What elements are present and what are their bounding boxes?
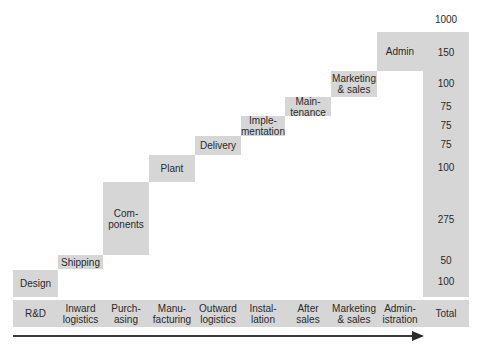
category-total: Total <box>423 300 469 327</box>
category-outward-logistics: Outward logistics <box>195 300 241 327</box>
category-purchasing: Purch- asing <box>103 300 149 327</box>
category-administration: Admin- istration <box>377 300 423 327</box>
total-implementation-value: 75 <box>423 120 469 131</box>
category-after-sales: After sales <box>285 300 331 327</box>
category-installation: Instal- lation <box>241 300 285 327</box>
category-rd: R&D <box>13 300 58 327</box>
step-design: Design <box>13 270 58 297</box>
total-components-value: 275 <box>423 214 469 225</box>
total-admin-value: 150 <box>423 47 469 58</box>
total-grand-label: 1000 <box>423 14 469 25</box>
total-delivery-value: 75 <box>423 139 469 150</box>
step-marketing-sales: Marketing & sales <box>331 71 377 97</box>
step-maintenance: Main- tenance <box>285 97 331 116</box>
category-inward-logistics: Inward logistics <box>58 300 103 327</box>
step-components: Com- ponents <box>103 182 149 255</box>
category-marketing-sales: Marketing & sales <box>331 300 377 327</box>
step-implementation: Imple- mentation <box>241 116 285 136</box>
total-design-value: 100 <box>423 276 469 287</box>
step-shipping: Shipping <box>58 255 103 269</box>
category-manufacturing: Manu- facturing <box>149 300 195 327</box>
total-marketing-value: 100 <box>423 78 469 89</box>
flow-arrow-line <box>13 335 413 337</box>
total-shipping-value: 50 <box>423 255 469 266</box>
step-admin: Admin <box>377 32 423 71</box>
step-plant: Plant <box>149 155 195 182</box>
total-plant-value: 100 <box>423 162 469 173</box>
total-maintenance-value: 75 <box>423 101 469 112</box>
step-delivery: Delivery <box>195 136 241 155</box>
arrow-right-icon <box>412 331 424 341</box>
